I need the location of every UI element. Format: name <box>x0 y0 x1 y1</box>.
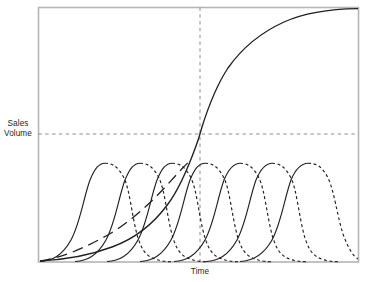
plot-frame <box>39 8 359 263</box>
y-axis-label: Sales Volume <box>0 119 36 139</box>
chart-canvas <box>0 0 369 282</box>
x-axis-label: Time <box>172 267 228 277</box>
y-axis-label-line-1: Sales <box>0 119 36 129</box>
chart-figure: Sales Volume Time <box>0 0 369 282</box>
y-axis-label-line-2: Volume <box>0 129 36 139</box>
